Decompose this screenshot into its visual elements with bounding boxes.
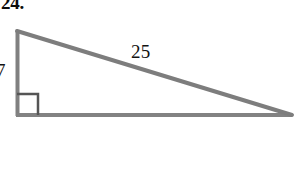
- triangle-diagram: [0, 0, 303, 191]
- right-angle-square-icon: [17, 94, 38, 115]
- geometry-figure: 24. 25 7: [0, 0, 303, 191]
- triangle-hypotenuse: [17, 31, 292, 115]
- vertical-leg-length-label: 7: [0, 61, 6, 80]
- hypotenuse-length-label: 25: [131, 42, 151, 61]
- problem-number-label: 24.: [1, 0, 24, 12]
